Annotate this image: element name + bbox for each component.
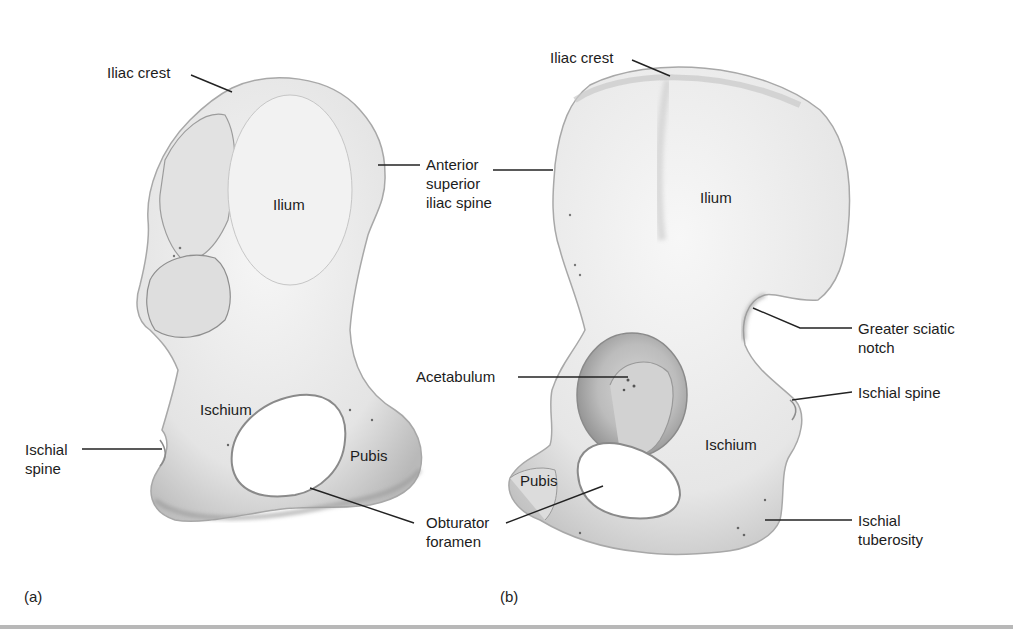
label-a-ischial-spine: Ischial spine [25, 440, 68, 478]
label-ischial-tuberosity: Ischial tuberosity [858, 511, 923, 549]
panel-b-bone [509, 67, 850, 554]
panel-a-tag: (a) [24, 588, 42, 605]
label-b-ischial-spine: Ischial spine [858, 383, 941, 402]
label-greater-sciatic-notch: Greater sciatic notch [858, 319, 955, 357]
hip-bone-figure: Iliac crest Anterior superior iliac spin… [0, 0, 1013, 644]
label-obturator-foramen: Obturator foramen [426, 513, 489, 551]
label-a-pubis: Pubis [350, 446, 388, 465]
bottom-divider [0, 625, 1013, 629]
label-acetabulum: Acetabulum [416, 367, 495, 386]
label-b-ilium: Ilium [700, 188, 732, 207]
label-asis: Anterior superior iliac spine [426, 155, 492, 212]
label-a-ischium: Ischium [200, 400, 252, 419]
panel-b-tag: (b) [500, 588, 518, 605]
label-b-ischium: Ischium [705, 435, 757, 454]
label-b-pubis: Pubis [520, 471, 558, 490]
label-a-ilium: Ilium [273, 195, 305, 214]
label-a-iliac-crest: Iliac crest [107, 63, 170, 82]
label-b-iliac-crest: Iliac crest [550, 48, 613, 67]
